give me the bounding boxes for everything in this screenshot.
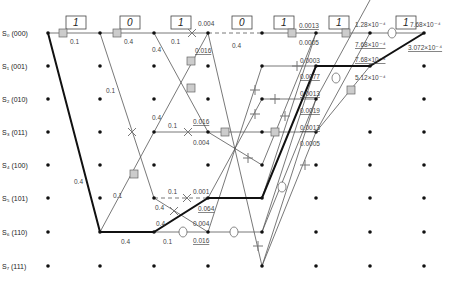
metric: 0.1 <box>106 87 115 94</box>
metric: 0.1 <box>171 38 180 45</box>
bit-6: 1 <box>336 17 342 28</box>
metric: 0.4 <box>155 204 164 211</box>
metric: 7.68×10⁻⁴ <box>355 56 386 63</box>
cross-markers <box>128 29 310 251</box>
bit-1: 1 <box>73 17 79 28</box>
bit-7: 1 <box>403 17 409 28</box>
metric: 0.0077 <box>300 73 320 80</box>
bit-3: 1 <box>178 17 184 28</box>
metric: 0.016 <box>193 237 210 244</box>
metric: 0.0005 <box>299 39 319 46</box>
metric: 0.016 <box>195 47 212 54</box>
trellis-diagram: S₀ (000) S₁ (001) S₂ (010) S₃ (011) S₄ (… <box>0 0 456 287</box>
metric: 0.4 <box>152 114 161 121</box>
metric: 0.001 <box>193 188 210 195</box>
branches <box>48 0 424 266</box>
state-label-s0: S₀ (000) <box>2 30 28 38</box>
bit-2: 0 <box>127 17 133 28</box>
metric: 5.12×10⁻⁴ <box>355 74 386 81</box>
metric: 0.004 <box>193 220 210 227</box>
metric: 0.1 <box>113 192 122 199</box>
metric: 0.4 <box>74 178 83 185</box>
state-labels: S₀ (000) S₁ (001) S₂ (010) S₃ (011) S₄ (… <box>2 30 28 271</box>
metric: 0.016 <box>193 118 210 125</box>
metric: 3.072×10⁻⁴ <box>408 44 442 51</box>
state-label-s2: S₂ (010) <box>2 96 28 104</box>
metric: 0.1 <box>168 122 177 129</box>
metric: 0.004 <box>198 20 215 27</box>
metric: 0.1 <box>70 38 79 45</box>
bit-4: 0 <box>239 17 245 28</box>
metric: 0.0013 <box>300 124 320 131</box>
metric: 0.064 <box>198 205 215 212</box>
metric: 0.4 <box>152 46 161 53</box>
metric: 0.0003 <box>300 57 320 64</box>
metric: 0.0019 <box>300 107 320 114</box>
metric: 0.4 <box>121 238 130 245</box>
state-label-s7: S₇ (111) <box>2 263 26 271</box>
state-label-s1: S₁ (001) <box>2 63 27 71</box>
metric: 0.0013 <box>300 90 320 97</box>
metric: 1.28×10⁻⁴ <box>355 21 386 28</box>
bit-5: 1 <box>281 17 287 28</box>
metric: 0.4 <box>124 38 133 45</box>
metric: 0.4 <box>232 42 241 49</box>
metric: 0.4 <box>156 220 165 227</box>
metric: 0.0013 <box>299 22 319 29</box>
metric: 7.68×10⁻⁴ <box>410 21 441 28</box>
metric: 7.68×10⁻⁴ <box>355 41 386 48</box>
metric: 0.1 <box>168 188 177 195</box>
metric: 0.0005 <box>300 140 320 147</box>
state-label-s3: S₃ (011) <box>2 129 27 137</box>
state-label-s4: S₄ (100) <box>2 162 28 170</box>
state-label-s6: S₆ (110) <box>2 229 27 237</box>
state-label-s5: S₅ (101) <box>2 195 28 203</box>
metric: 0.1 <box>163 238 172 245</box>
branch-metrics: 0.1 0.4 0.4 0.1 0.004 0.4 0.016 0.1 0.4 … <box>70 20 442 245</box>
metric: 0.004 <box>193 139 210 146</box>
